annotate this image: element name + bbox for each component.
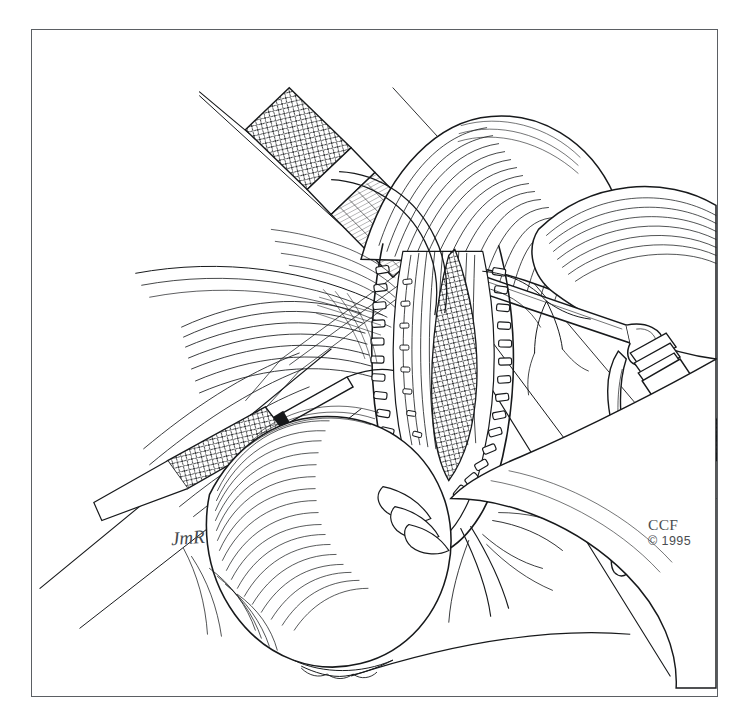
figure-frame: CCF © 1995 JmR	[31, 29, 718, 697]
copyright-year: © 1995	[648, 535, 691, 549]
surgical-illustration	[32, 30, 717, 696]
ccf-credit-mark: CCF	[648, 517, 691, 534]
credit-block: CCF © 1995	[648, 517, 691, 548]
figure-page: CCF © 1995 JmR	[0, 0, 741, 715]
artist-signature: JmR	[170, 526, 205, 550]
